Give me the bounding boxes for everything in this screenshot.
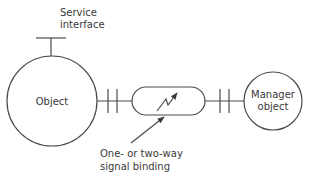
left-connector: [97, 89, 132, 113]
signal-binding-capsule[interactable]: [132, 87, 205, 115]
service-interface-label-line1: Service: [60, 7, 97, 18]
binding-caption-line2: signal binding: [100, 161, 170, 172]
binding-diagram: Service interface Object Manager object …: [0, 0, 309, 181]
object-label: Object: [36, 96, 69, 107]
binding-caption-line1: One- or two-way: [100, 148, 183, 159]
manager-label-line1: Manager: [251, 89, 296, 100]
service-interface-symbol: [36, 38, 66, 56]
caption-pointer-arrow: [131, 117, 164, 143]
lightning-arrow-icon: [157, 93, 177, 111]
right-connector: [205, 89, 244, 113]
service-interface-label-line2: interface: [60, 19, 105, 30]
manager-label-line2: object: [258, 101, 289, 112]
